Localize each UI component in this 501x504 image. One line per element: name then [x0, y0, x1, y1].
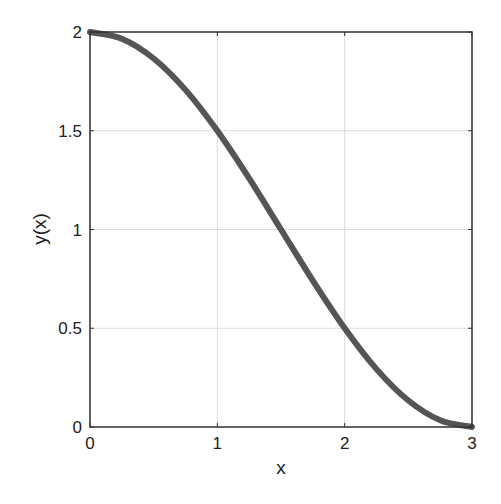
y-tick-labels: 00.511.52	[58, 23, 82, 437]
y-tick-label: 0.5	[58, 319, 82, 338]
y-tick-label: 0	[73, 418, 82, 437]
x-tick-label: 0	[85, 434, 94, 453]
y-axis-label: y(x)	[29, 213, 50, 245]
y-tick-label: 2	[73, 23, 82, 42]
y-tick-label: 1	[73, 221, 82, 240]
x-axis-label: x	[276, 457, 286, 478]
x-tick-label: 1	[213, 434, 222, 453]
x-tick-label: 2	[340, 434, 349, 453]
x-tick-label: 3	[467, 434, 476, 453]
line-chart: 0123 00.511.52 x y(x)	[0, 0, 501, 504]
y-tick-label: 1.5	[58, 122, 82, 141]
x-tick-labels: 0123	[85, 434, 476, 453]
